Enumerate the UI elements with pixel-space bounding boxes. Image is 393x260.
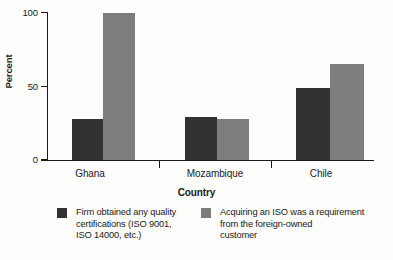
x-label-ghana: Ghana [47,168,133,179]
bar-chile-series1 [296,88,330,160]
y-tick-label-0: 0 [0,155,38,165]
y-tick-label-100: 100 [0,8,38,18]
x-separator-tick-1 [159,161,160,168]
x-axis-line [41,160,374,161]
y-tick-50 [41,86,48,87]
bar-mozambique-series1 [185,117,217,160]
legend-label-series1: Firm obtained any quality certifications… [76,207,176,242]
bar-chart: Percent 100 50 0 Ghana Mozambique Chile … [0,0,393,260]
legend-entry-series2: Acquiring an ISO was a requirement from … [201,207,391,242]
x-separator-tick-2 [271,161,272,168]
chart-legend: Firm obtained any quality certifications… [0,205,393,260]
legend-label-series2: Acquiring an ISO was a requirement from … [220,207,364,242]
x-label-chile: Chile [271,168,371,179]
legend-entry-series1: Firm obtained any quality certifications… [57,207,197,242]
x-label-mozambique: Mozambique [159,168,271,179]
bar-ghana-series1 [72,119,103,160]
legend-swatch-icon-series1 [57,208,67,218]
y-tick-label-50: 50 [0,82,38,92]
legend-swatch-icon-series2 [201,208,211,218]
bar-mozambique-series2 [217,119,249,160]
bar-ghana-series2 [103,13,135,160]
x-axis-title: Country [0,187,393,198]
y-axis-title: Percent [3,42,14,102]
y-tick-100 [41,12,48,13]
bar-chile-series2 [330,64,364,160]
plot-area [48,13,365,160]
